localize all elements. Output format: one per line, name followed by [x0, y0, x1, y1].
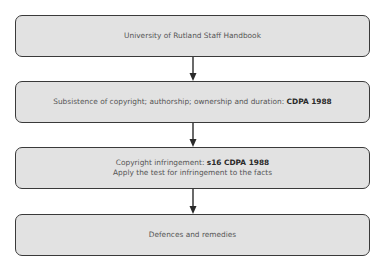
- flow-node-defences: Defences and remedies: [15, 214, 370, 256]
- node-text-line: University of Rutland Staff Handbook: [124, 31, 261, 41]
- flow-node-subsistence: Subsistence of copyright; authorship; ow…: [15, 81, 370, 123]
- flow-node-infringement: Copyright infringement: s16 CDPA 1988 Ap…: [15, 147, 370, 189]
- flow-arrow-1: [188, 57, 198, 81]
- flow-arrow-3: [188, 189, 198, 214]
- node-text-line: Subsistence of copyright; authorship; ow…: [53, 97, 332, 107]
- flow-node-handbook: University of Rutland Staff Handbook: [15, 15, 370, 57]
- arrow-head-icon: [190, 206, 197, 214]
- arrow-head-icon: [190, 73, 197, 81]
- node-text-line: Copyright infringement: s16 CDPA 1988: [116, 158, 269, 168]
- arrow-head-icon: [190, 139, 197, 147]
- node-text-line: Apply the test for infringement to the f…: [113, 168, 272, 178]
- node-text-line: Defences and remedies: [149, 230, 236, 240]
- flow-arrow-2: [188, 123, 198, 147]
